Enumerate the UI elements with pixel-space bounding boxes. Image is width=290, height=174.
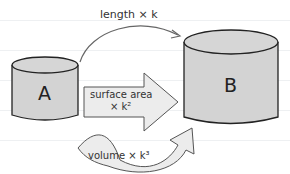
volume-label: volume × k³ xyxy=(88,150,150,162)
length-arrow xyxy=(80,26,178,62)
surface-label-1: surface area xyxy=(90,89,152,101)
length-label: length × k xyxy=(100,9,158,21)
surface-label-2: × k² xyxy=(110,101,131,113)
cylinder-b-label: B xyxy=(224,74,237,96)
cylinder-a-label: A xyxy=(38,82,51,104)
